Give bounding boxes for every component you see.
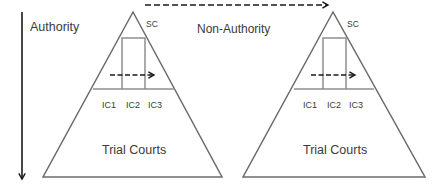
- non-authority-label: Non-Authority: [197, 22, 270, 36]
- authority-label: Authority: [30, 20, 80, 34]
- right-ic3-label: IC3: [349, 100, 363, 110]
- right-ic1-label: IC1: [303, 100, 317, 110]
- right-ic2-label: IC2: [327, 100, 341, 110]
- court-hierarchy-diagram: Authority Non-Authority SC IC1 IC2 IC3 T…: [0, 0, 443, 189]
- left-ic-column: [122, 38, 145, 89]
- right-ic-column: [323, 38, 346, 89]
- left-ic3-label: IC3: [148, 100, 162, 110]
- left-ic2-label: IC2: [126, 100, 140, 110]
- left-ic1-label: IC1: [102, 100, 116, 110]
- left-sc-label: SC: [146, 19, 158, 29]
- left-trial-courts-label: Trial Courts: [102, 143, 166, 157]
- right-sc-label: SC: [347, 19, 359, 29]
- right-trial-courts-label: Trial Courts: [303, 143, 367, 157]
